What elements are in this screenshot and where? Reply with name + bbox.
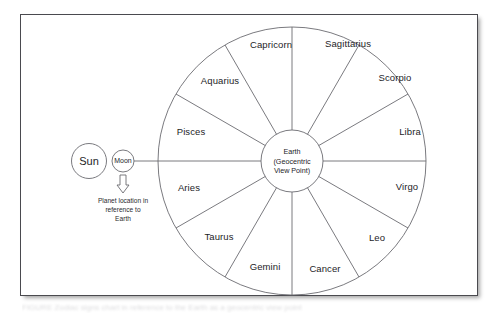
earth-center-circle: [261, 130, 323, 192]
figure-caption: FIGURE Zodiac signs chart in reference t…: [22, 303, 462, 313]
figure-frame: Sagittarius Scorpio Libra Virgo Leo Canc…: [20, 14, 478, 296]
zodiac-diagram: [21, 15, 479, 297]
moon-circle: [112, 150, 134, 172]
bodies-group: [72, 144, 159, 179]
sun-circle: [72, 144, 107, 179]
down-arrow-icon: [117, 175, 129, 193]
figure-caption-text: FIGURE Zodiac signs chart in reference t…: [22, 303, 462, 312]
wheel-group: [158, 27, 426, 295]
